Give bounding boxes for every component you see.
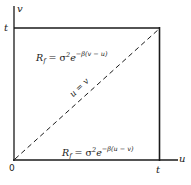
covariance-domain-diagram: v t u t 0 Rf = σ2e−β(v − u) Rf = σ2e−β(u… [0, 0, 191, 185]
origin-label: 0 [9, 164, 15, 173]
upper-eq: = σ [46, 52, 66, 63]
x-axis-label: u [179, 154, 185, 164]
lower-exponent: −β(u − v) [102, 145, 134, 153]
lower-eq: = σ [72, 147, 92, 158]
upper-exponent: −β(v − u) [76, 50, 108, 58]
upper-region-equation: Rf = σ2e−β(v − u) [36, 51, 108, 65]
y-tick-label: t [4, 23, 8, 33]
lower-region-equation: Rf = σ2e−β(u − v) [62, 146, 134, 160]
diagonal-u-equals-v [15, 29, 159, 159]
x-tick-label: t [156, 165, 160, 175]
y-axis-label: v [17, 4, 23, 14]
